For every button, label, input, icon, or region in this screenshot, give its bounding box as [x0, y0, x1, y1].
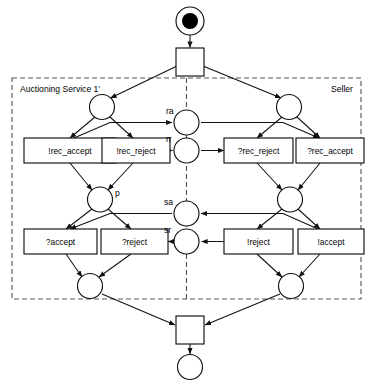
arc-sa-to-q-accept: [70, 214, 172, 230]
arc-rec-accept-to-ra: [74, 123, 172, 139]
arc-p-to-q-reject: [108, 209, 131, 229]
petri-net-canvas: Auctioning Service 1' Seller: [0, 0, 374, 385]
arc-e-accept-to-rightbot: [299, 254, 320, 277]
arc-q-rec-reject-to-rightmid: [257, 163, 282, 190]
transition-start[interactable]: [176, 48, 204, 76]
zone-seller-label: Seller: [331, 84, 353, 94]
arc-rec-reject-to-p: [108, 163, 133, 190]
arc-q-reject-to-leftbot: [99, 254, 131, 277]
place-ra[interactable]: [174, 110, 199, 135]
place-label-group: ra rr p sa sr: [115, 106, 174, 235]
arc-righttop-to-q-rec-reject: [257, 117, 282, 138]
place-p[interactable]: [88, 187, 113, 212]
transition-end[interactable]: [176, 316, 204, 344]
place-right-bot[interactable]: [279, 274, 304, 299]
arc-e-reject-to-rightbot: [257, 254, 282, 277]
arc-rec-accept-to-p: [70, 163, 92, 190]
place-left-bot[interactable]: [78, 274, 103, 299]
zone-auctioning-label: Auctioning Service 1': [20, 84, 100, 94]
label-q-accept: ?accept: [46, 237, 76, 247]
label-e-reject: !reject: [247, 237, 270, 247]
place-right-top[interactable]: [277, 95, 302, 120]
label-place-p: p: [115, 188, 120, 198]
token-init-place: [182, 13, 198, 29]
label-place-ra: ra: [166, 106, 174, 116]
arc-q-accept-to-leftbot: [66, 254, 82, 277]
arc-rightmid-to-e-accept: [298, 209, 320, 229]
label-rec-reject: !rec_reject: [116, 146, 156, 156]
arc-lefttop-to-rec-reject: [110, 117, 133, 138]
arc-start-to-right-top: [203, 66, 281, 98]
arc-start-to-left-top: [111, 66, 178, 98]
place-rr[interactable]: [174, 138, 199, 163]
label-e-accept: !accept: [317, 237, 345, 247]
label-q-rec-accept: ?rec_accept: [307, 146, 353, 156]
label-rec-accept: !rec_accept: [48, 146, 92, 156]
arc-q-rec-accept-to-rightmid: [298, 163, 320, 190]
place-right-mid[interactable]: [278, 187, 303, 212]
petri-net-diagram: Auctioning Service 1' Seller: [0, 0, 374, 385]
place-final[interactable]: [178, 355, 203, 380]
place-left-top[interactable]: [90, 95, 115, 120]
arc-righttop-to-q-rec-accept: [297, 117, 320, 138]
label-place-sa: sa: [164, 197, 173, 207]
label-place-sr: sr: [164, 225, 171, 235]
label-q-reject: ?reject: [122, 237, 148, 247]
label-place-rr: rr: [166, 134, 172, 144]
place-sa[interactable]: [174, 201, 199, 226]
place-sr[interactable]: [174, 229, 199, 254]
label-q-rec-reject: ?rec_reject: [238, 146, 280, 156]
arc-rightmid-to-e-reject: [257, 209, 282, 229]
